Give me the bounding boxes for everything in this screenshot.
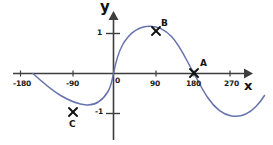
- point-b-label: B: [161, 18, 168, 28]
- y-tick-label-1: 1: [97, 28, 102, 37]
- x-tick-label-neg180: -180: [13, 79, 31, 88]
- origin-label: 0: [115, 76, 120, 85]
- point-a-label: A: [200, 58, 207, 68]
- point-c-marker: [69, 108, 77, 116]
- y-tick-label-neg1: -1: [95, 107, 103, 116]
- sine-curve-figure: x y 0 -180 -90 90 180 270 1 -1 A B C: [0, 0, 273, 145]
- plot-canvas: [0, 0, 273, 145]
- x-axis: [13, 69, 253, 79]
- x-tick-label-270: 270: [224, 79, 239, 88]
- y-axis-title: y: [100, 0, 110, 16]
- point-b-marker: [152, 27, 160, 35]
- x-tick-label-90: 90: [150, 79, 160, 88]
- x-axis-title: x: [244, 78, 252, 93]
- x-tick-label-180: 180: [186, 79, 201, 88]
- point-c-label: C: [69, 119, 76, 129]
- x-tick-label-neg90: -90: [66, 79, 79, 88]
